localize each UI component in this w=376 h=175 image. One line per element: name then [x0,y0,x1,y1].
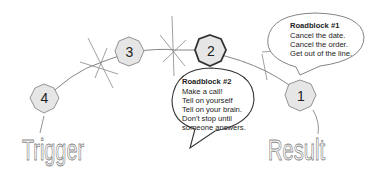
node-3-label: 3 [126,44,134,60]
roadblock-1-line: Get out of the line. [290,49,352,58]
roadblock-2-bubble: Roadblock #2 Make a call! Tell on yourse… [172,68,254,148]
trigger-label: Trigger [22,133,84,166]
roadblock-1-line: Cancel the date. [290,31,345,40]
node-2: 2 [195,35,226,66]
roadblock-2-line: someone answers. [182,123,246,132]
node-3: 3 [115,37,144,66]
roadblock-2-line: Tell on your brain. [182,105,242,114]
roadblock-2-line: Tell on yourself [182,96,234,105]
result-label: Result [268,133,325,166]
result-connector [313,110,318,134]
trigger-connector [40,116,44,133]
roadblock-1-line: Cancel the order. [290,40,348,49]
node-1-label: 1 [297,88,305,104]
break-mark-2 [160,16,186,76]
roadblock-1-bubble: Roadblock #1 Cancel the date. Cancel the… [268,13,364,75]
chain-arc [42,49,298,103]
node-4: 4 [30,84,59,113]
roadblock-2-line: Make a call! [182,87,223,96]
roadblock-1-title: Roadblock #1 [290,21,340,30]
node-1: 1 [285,80,316,111]
node-2-label: 2 [207,43,215,59]
behavior-chain-diagram: 4 3 2 1 Roadblock #1 Cancel the date. Ca… [0,0,376,175]
node-4-label: 4 [41,90,49,106]
roadblock-2-line: Don't stop until [182,114,232,123]
roadblock-2-title: Roadblock #2 [182,77,231,86]
